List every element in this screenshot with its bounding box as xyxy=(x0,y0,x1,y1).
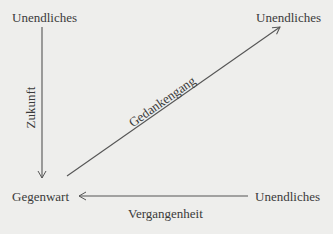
node-present: Gegenwart xyxy=(12,190,69,203)
time-diagram: Unendliches Unendliches Gegenwart Unendl… xyxy=(0,0,333,234)
edge-label-past: Vergangenheit xyxy=(128,207,203,220)
node-top-left-infinite: Unendliches xyxy=(12,11,77,24)
node-top-right-infinite: Unendliches xyxy=(256,11,321,24)
edge-label-future: Zukunft xyxy=(24,80,37,136)
node-bottom-right-infinite: Unendliches xyxy=(255,190,320,203)
